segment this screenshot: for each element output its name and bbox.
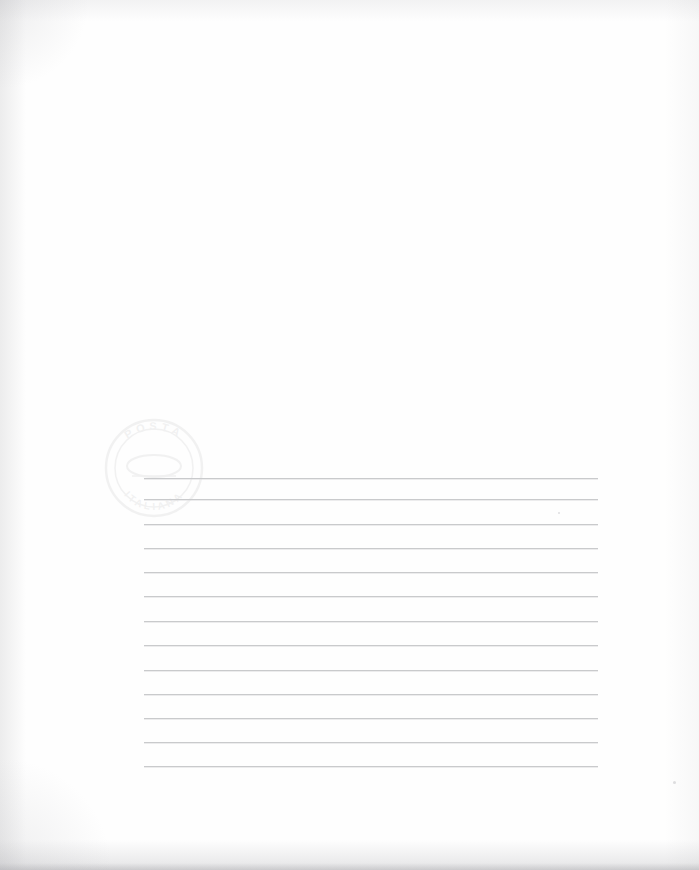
scanned-document-page: POSTA ITALIANA Scan of an otherwise blan… xyxy=(0,0,699,870)
paper-background xyxy=(0,0,699,870)
